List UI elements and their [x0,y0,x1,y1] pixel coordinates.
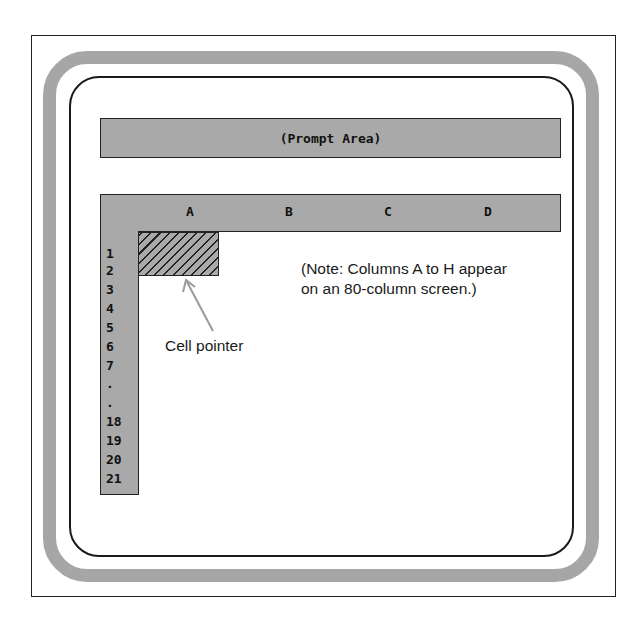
columns-note-line-1: (Note: Columns A to H appear [301,259,507,279]
pointer-arrow-icon [0,0,644,626]
columns-note-line-2: on an 80-column screen.) [301,279,507,299]
columns-note: (Note: Columns A to H appear on an 80-co… [301,259,507,299]
cell-pointer-label: Cell pointer [165,337,243,355]
